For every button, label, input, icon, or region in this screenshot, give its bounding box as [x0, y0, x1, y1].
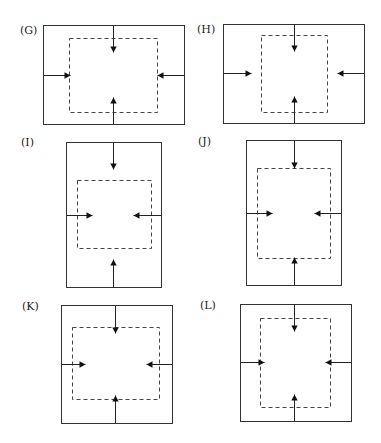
arrow-top-icon	[110, 143, 116, 170]
panel-h: (H)	[197, 23, 365, 124]
arrow-right-icon	[134, 212, 162, 218]
arrow-left-icon	[247, 210, 273, 216]
arrow-right-icon	[315, 210, 342, 216]
dashed-inner-boundary	[261, 319, 331, 408]
panel-label: (K)	[22, 300, 39, 313]
arrow-top-icon	[110, 26, 116, 53]
arrow-top-icon	[112, 306, 118, 334]
panel-k: (K)	[22, 300, 173, 424]
diagram-canvas: (G)(H)(I)(J)(K)(L)	[0, 0, 381, 443]
panel-label: (L)	[200, 299, 216, 312]
panel-l: (L)	[200, 299, 352, 422]
arrow-bottom-icon	[291, 97, 297, 124]
arrow-bottom-icon	[112, 396, 118, 424]
panel-label: (H)	[197, 23, 215, 36]
dashed-inner-boundary	[73, 328, 160, 400]
panel-label: (J)	[198, 135, 211, 148]
panel-i: (I)	[21, 136, 162, 288]
arrow-right-icon	[158, 72, 185, 78]
arrow-right-icon	[326, 359, 352, 365]
arrow-left-icon	[62, 361, 86, 367]
arrow-top-icon	[291, 141, 297, 169]
arrow-top-icon	[291, 25, 297, 52]
arrow-bottom-icon	[110, 98, 116, 125]
panel-label: (G)	[20, 24, 37, 37]
arrow-bottom-icon	[110, 260, 116, 288]
arrow-left-icon	[44, 72, 71, 78]
arrow-left-icon	[67, 212, 93, 218]
panel-label: (I)	[21, 136, 34, 149]
arrow-left-icon	[224, 70, 252, 76]
arrow-bottom-icon	[291, 258, 297, 286]
panel-j: (J)	[198, 135, 342, 286]
arrow-right-icon	[338, 70, 365, 76]
panel-g: (G)	[20, 24, 185, 125]
